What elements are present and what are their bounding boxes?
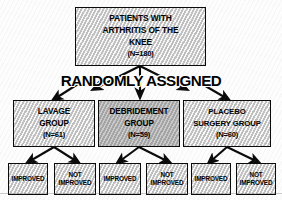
outcome-debridement-improved-line-1: IMPROVED — [104, 175, 137, 183]
outcome-placebo-improved-line-1: IMPROVED — [195, 175, 228, 183]
group-lavage-line-2: GROUP — [39, 118, 69, 129]
outcome-node-debridement-improved: IMPROVED — [99, 163, 141, 195]
group-lavage-line-1: LAVAGE — [38, 106, 70, 117]
group-placebo-line-1: PLACEBO — [208, 106, 245, 117]
outcome-placebo-not-improved-line-2: IMPROVED — [240, 179, 273, 187]
arrow-placebo-to-outcomes — [211, 147, 256, 161]
root-node-patients: PATIENTS WITH ARTHRITIS OF THE KNEE (N=1… — [75, 7, 206, 66]
outcome-debridement-not-improved-line-1: NOT — [160, 171, 173, 179]
scan-baseline-artifact — [0, 193, 282, 194]
outcome-node-debridement-not-improved: NOT IMPROVED — [146, 163, 188, 195]
group-node-lavage: LAVAGE GROUP (N=61) — [13, 100, 95, 147]
outcome-node-lavage-improved: IMPROVED — [8, 163, 48, 195]
group-node-debridement: DEBRIDEMENT GROUP (N=59) — [98, 100, 180, 147]
outcome-lavage-not-improved-line-2: IMPROVED — [59, 179, 92, 187]
group-node-placebo: PLACEBO SURGERY GROUP (N=60) — [183, 100, 271, 147]
arrow-debridement-to-outcomes — [120, 147, 167, 161]
group-lavage-sample-size: (N=61) — [43, 129, 65, 140]
group-placebo-sample-size: (N=60) — [216, 129, 238, 140]
outcome-node-placebo-improved: IMPROVED — [191, 163, 231, 195]
randomization-label: RANDOMLY ASSIGNED — [0, 72, 282, 89]
outcome-debridement-not-improved-line-2: IMPROVED — [151, 179, 184, 187]
group-debridement-sample-size: (N=59) — [128, 129, 150, 140]
outcome-node-placebo-not-improved: NOT IMPROVED — [236, 163, 276, 195]
arrow-lavage-to-outcomes — [30, 147, 76, 161]
outcome-lavage-not-improved-line-1: NOT — [68, 171, 81, 179]
root-line-2: ARTHRITIS OF THE — [102, 25, 178, 37]
trial-flowchart: PATIENTS WITH ARTHRITIS OF THE KNEE (N=1… — [0, 0, 282, 200]
outcome-node-lavage-not-improved: NOT IMPROVED — [54, 163, 96, 195]
outcome-placebo-not-improved-line-1: NOT — [249, 171, 262, 179]
group-debridement-line-1: DEBRIDEMENT — [110, 106, 169, 117]
root-line-3: KNEE — [129, 37, 152, 49]
root-line-1: PATIENTS WITH — [109, 13, 172, 25]
group-placebo-line-2: SURGERY GROUP — [193, 118, 261, 129]
outcome-lavage-improved-line-1: IMPROVED — [12, 175, 45, 183]
root-sample-size: (N=180) — [127, 48, 153, 60]
group-debridement-line-2: GROUP — [124, 118, 154, 129]
